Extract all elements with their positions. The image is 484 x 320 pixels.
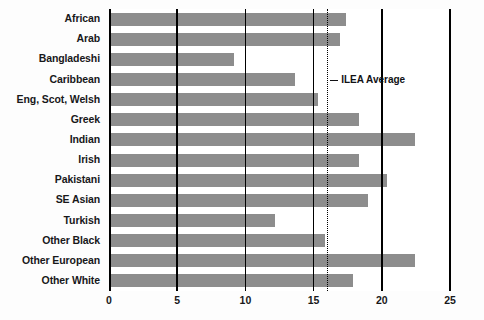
y-axis-label: Pakistani [0, 173, 100, 185]
y-axis-label: Irish [0, 153, 100, 165]
x-axis-tick-labels: 0510152025 [109, 294, 450, 314]
gridline [313, 9, 315, 291]
x-axis-tick-label: 15 [308, 294, 320, 306]
y-axis-label: Turkish [0, 214, 100, 226]
bar [109, 113, 359, 126]
y-axis-labels: AfricanArabBangladeshiCaribbeanEng, Scot… [0, 9, 104, 291]
y-axis-line [109, 9, 111, 291]
x-axis-tick-label: 25 [444, 294, 456, 306]
y-axis-label: Other European [0, 254, 100, 266]
ilea-average-annotation-label: ILEA Average [341, 74, 405, 85]
bar [109, 73, 295, 86]
ilea-average-leader-line [330, 80, 338, 81]
bar [109, 13, 346, 26]
bar [109, 53, 234, 66]
bar [109, 174, 387, 187]
y-axis-label: Bangladeshi [0, 52, 100, 64]
gridline [449, 9, 451, 291]
y-axis-label: Greek [0, 113, 100, 125]
bar [109, 274, 353, 287]
bar [109, 194, 368, 207]
bar [109, 133, 415, 146]
x-axis-tick-label: 20 [376, 294, 388, 306]
y-axis-label: Arab [0, 32, 100, 44]
y-axis-label: African [0, 12, 100, 24]
x-axis-tick-label: 5 [174, 294, 180, 306]
bar [109, 234, 325, 247]
y-axis-label: Caribbean [0, 73, 100, 85]
ilea-average-line [327, 9, 328, 291]
y-axis-label: Eng, Scot, Welsh [0, 93, 100, 105]
x-axis-tick-label: 0 [106, 294, 112, 306]
bar [109, 154, 359, 167]
gridline [245, 9, 247, 291]
y-axis-label: Indian [0, 133, 100, 145]
gridline [381, 9, 383, 291]
x-axis-tick-label: 10 [240, 294, 252, 306]
gridline [176, 9, 178, 291]
bar [109, 214, 275, 227]
bar [109, 254, 415, 267]
y-axis-label: Other White [0, 274, 100, 286]
plot-area [109, 9, 450, 291]
bar [109, 33, 340, 46]
bar-chart: AfricanArabBangladeshiCaribbeanEng, Scot… [0, 0, 484, 320]
bar [109, 93, 318, 106]
y-axis-label: Other Black [0, 234, 100, 246]
y-axis-label: SE Asian [0, 193, 100, 205]
